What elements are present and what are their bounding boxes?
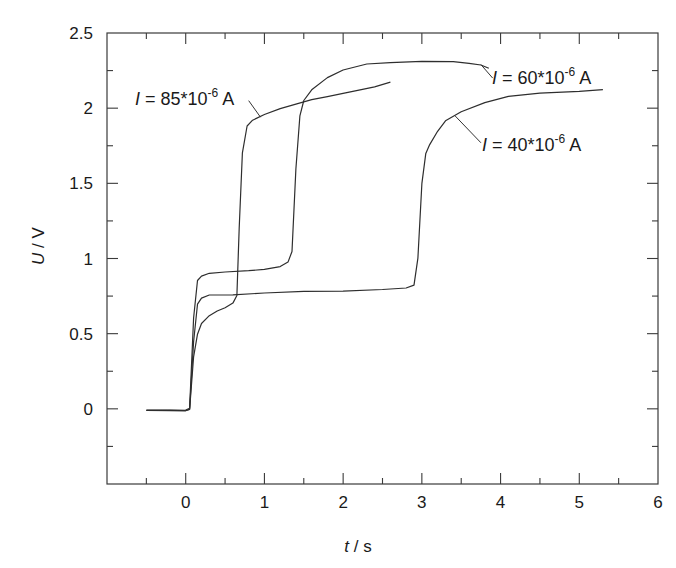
x-tick-label: 5 (575, 493, 584, 512)
series-line-0 (146, 82, 390, 411)
y-tick-label: 2.5 (69, 24, 93, 43)
y-tick-label: 1 (84, 250, 93, 269)
y-tick-label: 0.5 (69, 325, 93, 344)
x-tick-label: 2 (338, 493, 347, 512)
x-tick-label: 3 (417, 493, 426, 512)
series-line-1 (146, 61, 488, 410)
x-axis-label: t / s (344, 537, 371, 556)
x-tick-label: 6 (653, 493, 662, 512)
y-tick-label: 1.5 (69, 174, 93, 193)
data-series (146, 61, 603, 411)
leader-line-2 (455, 116, 481, 143)
y-tick-label: 2 (84, 99, 93, 118)
y-tick-label: 0 (84, 400, 93, 419)
annotation-60: I = 60*10-6 A (492, 65, 591, 88)
annotation-leader-lines (249, 65, 493, 143)
y-axis-label: U / V (29, 226, 48, 264)
x-tick-label: 1 (260, 493, 269, 512)
x-tick-label: 0 (181, 493, 190, 512)
line-chart: 012345600.511.522.5 I = 85*10-6 A I = 60… (0, 0, 676, 568)
leader-line-0 (249, 101, 261, 118)
leader-line-1 (481, 65, 493, 79)
annotation-85: I = 85*10-6 A (135, 86, 234, 109)
x-tick-label: 4 (496, 493, 505, 512)
annotation-40: I = 40*10-6 A (482, 132, 581, 155)
